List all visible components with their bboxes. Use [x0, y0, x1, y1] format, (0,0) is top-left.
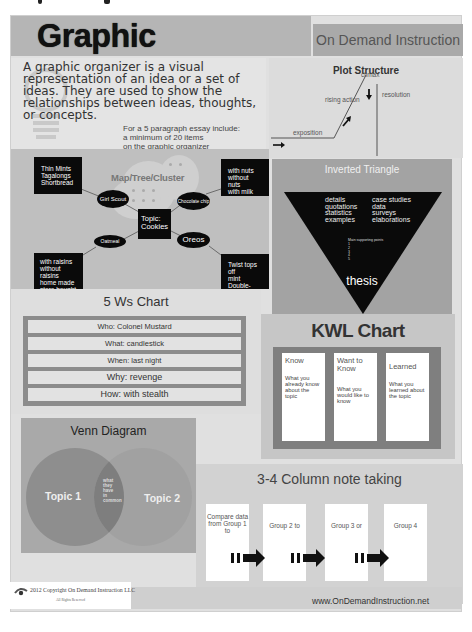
- detail-line: home made: [40, 279, 77, 286]
- graphic-organizers-poster: Graphic Organizers On Demand Instruction…: [10, 15, 462, 612]
- copyright-text: 2012 Copyright On Demand Instruction LLC: [30, 587, 135, 593]
- detail-box-chocolate-chip: with nuts without nuts with milk: [221, 159, 269, 196]
- company-logo-icon: [14, 587, 28, 596]
- triangle-left-list: details quotations statistics examples: [325, 197, 357, 223]
- main-points-numbers: 1 2 3 4 5: [348, 243, 350, 262]
- essay-note-line: a minimum of 20 items: [123, 133, 240, 142]
- triangle-item: examples: [325, 217, 357, 224]
- kwl-column-learned: Learned What you learned about the topic: [386, 353, 429, 441]
- note-column-4: Group 4: [384, 504, 427, 581]
- kwl-column-know: Know What you already know about the top…: [282, 353, 325, 441]
- ws-row-what: What: candlestick: [28, 337, 241, 350]
- detail-box-oreos: Twist tops off mint Double-Stuf: [221, 254, 269, 289]
- five-ws-title: 5 Ws Chart: [11, 294, 261, 309]
- detail-line: mint: [228, 275, 262, 282]
- kwl-column-heading: Want to Know: [337, 357, 363, 372]
- venn-diagram-panel: Venn Diagram Topic 1 Topic 2 what they h…: [21, 418, 196, 553]
- triangle-shape: [272, 159, 452, 314]
- kwl-chart-panel: KWL Chart Know What you already know abo…: [261, 314, 455, 459]
- triangle-item: elaborations: [372, 217, 411, 224]
- kwl-column-want: Want to Know What you would like to know: [334, 353, 377, 441]
- kwl-frame: Know What you already know about the top…: [273, 347, 441, 449]
- ws-row-who: Who: Colonel Mustard: [28, 320, 241, 333]
- venn-topic-1: Topic 1: [45, 490, 81, 502]
- dashed-arrow-icon: [355, 549, 397, 567]
- five-ws-panel: 5 Ws Chart Who: Colonel Mustard What: ca…: [11, 289, 261, 414]
- venn-common-line: common: [103, 498, 122, 503]
- rights-reserved: All Rights Reserved: [10, 598, 131, 602]
- plot-structure-panel: Plot Structure climax rising action reso…: [269, 58, 463, 158]
- essay-note: For a 5 paragraph essay include: a minim…: [123, 124, 240, 151]
- detail-line: with milk: [228, 188, 262, 195]
- dashed-arrow-icon: [231, 549, 273, 567]
- main-points-label: Main supporting points: [348, 238, 383, 242]
- point-number: 5: [348, 258, 350, 262]
- node-girl-scout: Girl Scout: [97, 190, 129, 208]
- detail-line: with raisins: [40, 258, 77, 265]
- ws-row-why: Why: revenge: [28, 371, 241, 384]
- map-cluster-panel: Map/Tree/Cluster Thin Mints Tagalongs Sh…: [11, 149, 269, 289]
- intro-description: A graphic organizer is a visual represen…: [23, 61, 268, 121]
- detail-line: Twist tops off: [228, 261, 262, 275]
- ws-row-when: When: last night: [28, 354, 241, 367]
- triangle-right-list: case studies data surveys elaborations: [372, 197, 411, 223]
- column-notes-panel: 3-4 Column note taking Compare data from…: [196, 464, 463, 604]
- venn-diagram-title: Venn Diagram: [21, 424, 196, 438]
- detail-box-girl-scout: Thin Mints Tagalongs Shortbread: [34, 157, 82, 194]
- note-column-1: Compare data from Group 1 to: [206, 504, 249, 581]
- note-column-3: Group 3 or: [325, 504, 368, 581]
- brand-subtitle: On Demand Instruction: [313, 32, 463, 48]
- note-column-2: Group 2 to: [263, 504, 306, 581]
- plot-label-exposition: exposition: [293, 129, 322, 136]
- kwl-column-body: What you would like to know: [337, 386, 374, 404]
- intro-panel: A graphic organizer is a visual represen…: [11, 58, 266, 153]
- ws-row-how: How: with stealth: [28, 388, 241, 401]
- plot-label-climax: climax: [361, 71, 379, 78]
- map-cluster-title: Map/Tree/Cluster: [111, 172, 184, 183]
- inverted-triangle-panel: Inverted Triangle details quotations sta…: [272, 159, 452, 314]
- detail-box-oatmeal: with raisins without raisins home made s…: [34, 253, 83, 289]
- header-subtitle-bar: On Demand Instruction: [313, 24, 463, 56]
- essay-note-line: For a 5 paragraph essay include:: [123, 124, 240, 133]
- website-link[interactable]: www.OnDemandInstruction.net: [312, 596, 429, 606]
- node-oatmeal: Oatmeal: [94, 235, 126, 248]
- node-chocolate-chip: Chocolate chip: [177, 192, 210, 210]
- topic-box: Topic: Cookies: [138, 209, 171, 239]
- column-notes-title: 3-4 Column note taking: [196, 471, 463, 487]
- detail-line: with nuts: [228, 167, 262, 174]
- kwl-column-heading: Learned: [389, 363, 426, 371]
- thesis-label: thesis: [272, 274, 452, 288]
- detail-line: Tagalongs: [41, 172, 75, 179]
- dashed-arrow-icon: [291, 549, 333, 567]
- node-oreos: Oreos: [177, 232, 210, 248]
- plot-label-resolution: resolution: [382, 91, 410, 98]
- detail-line: Thin Mints: [41, 165, 75, 172]
- kwl-chart-title: KWL Chart: [261, 320, 455, 342]
- detail-line: Shortbread: [41, 179, 75, 186]
- venn-common-text: what they have in common: [103, 478, 122, 503]
- header-title-bar: Graphic Organizers: [11, 16, 311, 56]
- five-ws-frame: Who: Colonel Mustard What: candlestick W…: [23, 316, 246, 406]
- copyright-block: 2012 Copyright On Demand Instruction LLC…: [10, 582, 131, 609]
- kwl-column-body: What you already know about the topic: [285, 375, 322, 399]
- detail-line: without nuts: [228, 174, 262, 188]
- venn-topic-2: Topic 2: [144, 492, 180, 504]
- kwl-column-heading: Know: [285, 357, 322, 365]
- detail-line: without raisins: [40, 265, 77, 279]
- cropped-text-fragment: [104, 0, 110, 4]
- cropped-text-fragment: [38, 0, 42, 4]
- kwl-column-body: What you learned about the topic: [389, 381, 426, 399]
- plot-label-rising-action: rising action: [325, 96, 360, 103]
